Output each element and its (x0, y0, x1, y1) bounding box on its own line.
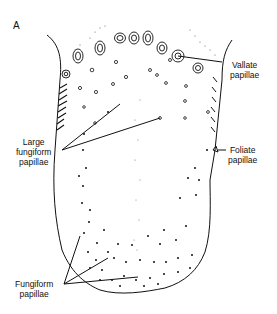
fungiform-papillae (78, 111, 208, 287)
label-line: Large (16, 137, 51, 147)
label-line: papillae (228, 155, 257, 165)
label-large-fungiform-papillae: Large fungiform papillae (16, 137, 51, 167)
label-fungiform-papillae: Fungiform papillae (15, 279, 53, 299)
vallate-papillae (62, 31, 203, 78)
label-vallate-papillae: Vallate papillae (230, 60, 259, 80)
label-line: papillae (16, 157, 51, 167)
label-line: fungiform (16, 147, 51, 157)
label-line: papillae (15, 289, 53, 299)
leader-lines (62, 56, 226, 284)
label-line: Foliate (228, 145, 257, 155)
label-line: Vallate (230, 60, 259, 70)
stipple (74, 25, 215, 250)
label-line: papillae (230, 70, 259, 80)
large-fungiform-papillae (78, 59, 209, 125)
label-line: Fungiform (15, 279, 53, 289)
label-foliate-papillae: Foliate papillae (228, 145, 257, 165)
tongue-outline (47, 35, 232, 293)
foliate-ridges-right (211, 77, 217, 132)
